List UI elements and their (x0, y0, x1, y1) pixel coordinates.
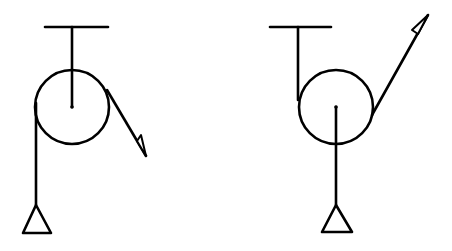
left-load-triangle-icon (23, 205, 51, 233)
right-pull-arrowhead-icon (412, 15, 428, 34)
right-pulley-figure (270, 15, 428, 232)
left-axle-dot (70, 105, 74, 109)
right-load-triangle-icon (322, 205, 352, 232)
pulley-diagram (0, 0, 452, 251)
left-pulley-figure (23, 27, 146, 233)
